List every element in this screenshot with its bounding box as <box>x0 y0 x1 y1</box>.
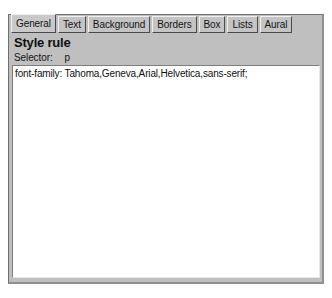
tab-text[interactable]: Text <box>58 16 86 33</box>
selector-label: Selector: <box>14 52 53 63</box>
tab-strip: General Text Background Borders Box List… <box>9 13 325 33</box>
tab-lists[interactable]: Lists <box>227 16 257 33</box>
tab-borders-label: Borders <box>157 19 191 30</box>
tab-lists-label: Lists <box>232 19 252 30</box>
tab-background-label: Background <box>93 19 145 30</box>
rule-text-content[interactable]: font-family: Tahoma,Geneva,Arial,Helveti… <box>15 68 317 80</box>
general-tab-panel: Style rule Selector: p font-family: Taho… <box>9 33 325 283</box>
tab-general-label: General <box>16 18 51 29</box>
tab-aural-label: Aural <box>265 19 288 30</box>
tab-general[interactable]: General <box>11 14 56 33</box>
page-title: Style rule <box>14 35 71 50</box>
tab-box[interactable]: Box <box>199 16 226 33</box>
style-rule-dialog: General Text Background Borders Box List… <box>8 14 324 284</box>
tab-aural[interactable]: Aural <box>260 16 293 33</box>
selector-value: p <box>65 52 71 63</box>
tab-text-label: Text <box>63 19 81 30</box>
selector-row: Selector: p <box>14 52 70 63</box>
tab-box-label: Box <box>204 19 221 30</box>
tab-borders[interactable]: Borders <box>152 16 196 33</box>
tab-background[interactable]: Background <box>88 16 150 33</box>
rule-text-editor[interactable]: font-family: Tahoma,Geneva,Arial,Helveti… <box>12 65 320 278</box>
